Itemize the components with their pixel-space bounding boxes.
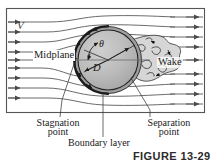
wake-label: Wake (157, 57, 183, 68)
velocity-label: V (17, 20, 24, 31)
theta-angle-label: θ (99, 39, 104, 49)
diameter-label: D (93, 63, 101, 74)
separation-point-label: Separation point (137, 118, 201, 137)
figure-caption: FIGURE 13-29 (133, 150, 211, 162)
stagnation-point-label: Stagnation point (28, 118, 88, 137)
stagnation-point-label-line2: point (28, 127, 88, 137)
separation-point-label-line2: point (137, 127, 201, 137)
midplane-label: Midplane (33, 50, 75, 61)
figure-container: V Midplane θ D Wake Stagnation point Bou… (0, 0, 211, 166)
boundary-layer-label: Boundary layer (68, 138, 130, 148)
